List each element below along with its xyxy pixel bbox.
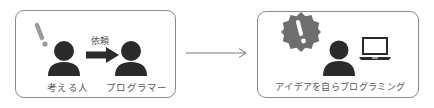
self-programmer-person-icon <box>322 40 356 76</box>
programmer-person-icon <box>113 40 149 76</box>
laptop-icon <box>359 37 391 61</box>
thinker-label: 考える人 <box>47 80 88 94</box>
request-label: 依頼 <box>91 34 110 47</box>
transition-arrow-icon <box>186 47 248 59</box>
caption-label: アイデアを自らプログラミング <box>275 80 405 93</box>
thinker-person-icon <box>46 40 82 76</box>
idea-badge-icon <box>281 12 321 52</box>
programmer-label: プログラマー <box>106 80 168 94</box>
